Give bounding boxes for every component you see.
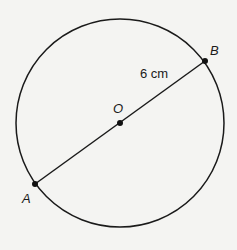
- circle-diagram: A O B 6 cm: [0, 0, 237, 250]
- diagram-svg: A O B 6 cm: [0, 0, 237, 250]
- label-o: O: [113, 101, 123, 116]
- point-a-dot: [32, 181, 38, 187]
- label-b: B: [210, 43, 219, 58]
- point-o-dot: [117, 120, 123, 126]
- measure-label: 6 cm: [140, 66, 168, 81]
- point-b-dot: [202, 58, 208, 64]
- label-a: A: [21, 191, 31, 206]
